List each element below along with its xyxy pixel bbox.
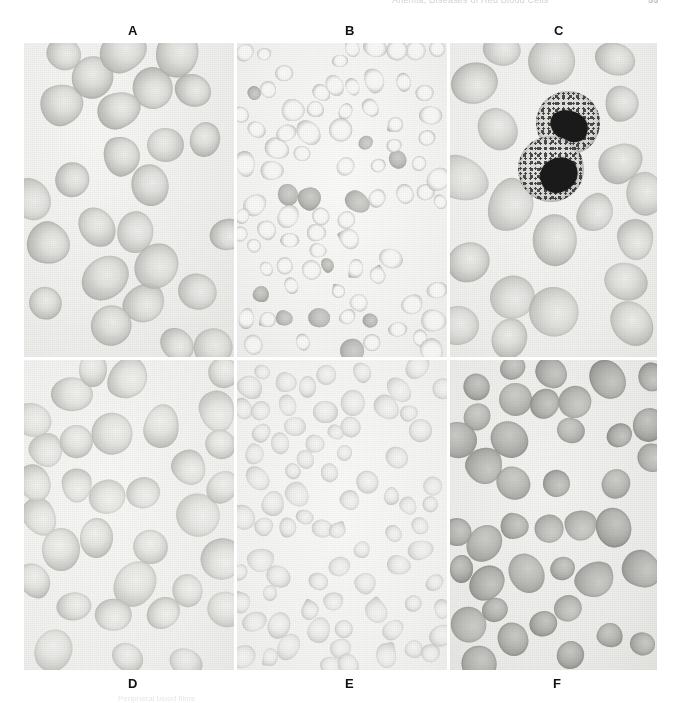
- panel-label-e: E: [345, 676, 354, 691]
- micrograph-panel-e[interactable]: [237, 360, 447, 670]
- panel-label-c: C: [554, 23, 564, 38]
- micrograph-panel-a[interactable]: [24, 43, 234, 357]
- running-header-title: Anemia, Diseases of Red Blood Cells: [392, 0, 549, 5]
- red-blood-cell: [147, 127, 184, 162]
- figure-caption: Peripheral blood films: [118, 694, 195, 703]
- red-blood-cell: [95, 599, 132, 631]
- panel-label-d: D: [128, 676, 138, 691]
- panel-label-f: F: [553, 676, 561, 691]
- micrograph-panel-b[interactable]: [237, 43, 447, 357]
- micrograph-panel-f[interactable]: [450, 360, 657, 670]
- panel-label-a: A: [128, 23, 138, 38]
- running-header: Anemia, Diseases of Red Blood Cells 55: [0, 0, 683, 9]
- micrograph-panel-c[interactable]: [450, 43, 657, 357]
- red-blood-cell: [341, 389, 366, 416]
- page-number: 55: [648, 0, 658, 5]
- red-blood-cell: [419, 106, 442, 125]
- figure-plate: [24, 43, 657, 670]
- granulocyte: [518, 136, 584, 202]
- red-blood-cell: [383, 487, 399, 505]
- micrograph-panel-d[interactable]: [24, 360, 234, 670]
- red-blood-cell: [279, 517, 296, 537]
- red-blood-cell: [348, 258, 363, 277]
- red-blood-cell: [261, 161, 284, 180]
- panel-label-b: B: [345, 23, 355, 38]
- red-blood-cell: [281, 233, 300, 247]
